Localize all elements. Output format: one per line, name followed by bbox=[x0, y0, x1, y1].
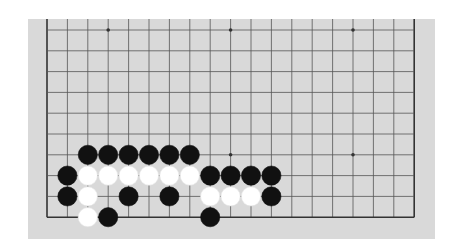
black-stone[interactable] bbox=[99, 145, 118, 164]
black-stone[interactable] bbox=[119, 187, 138, 206]
black-stone[interactable] bbox=[58, 166, 77, 185]
go-board[interactable] bbox=[28, 19, 435, 239]
black-stone[interactable] bbox=[160, 145, 179, 164]
star-point bbox=[106, 28, 110, 32]
white-stone[interactable] bbox=[241, 187, 260, 206]
white-stone[interactable] bbox=[139, 166, 158, 185]
white-stone[interactable] bbox=[180, 166, 199, 185]
white-stone[interactable] bbox=[119, 166, 138, 185]
black-stone[interactable] bbox=[119, 145, 138, 164]
white-stone[interactable] bbox=[221, 187, 240, 206]
white-stone[interactable] bbox=[78, 166, 97, 185]
black-stone[interactable] bbox=[139, 145, 158, 164]
black-stone[interactable] bbox=[201, 208, 220, 227]
white-stone[interactable] bbox=[99, 166, 118, 185]
board-grid[interactable] bbox=[28, 19, 435, 239]
black-stone[interactable] bbox=[99, 208, 118, 227]
black-stone[interactable] bbox=[262, 187, 281, 206]
black-stone[interactable] bbox=[78, 145, 97, 164]
star-point bbox=[229, 153, 233, 157]
star-point bbox=[351, 153, 355, 157]
black-stone[interactable] bbox=[180, 145, 199, 164]
black-stone[interactable] bbox=[201, 166, 220, 185]
star-point bbox=[351, 28, 355, 32]
black-stone[interactable] bbox=[58, 187, 77, 206]
white-stone[interactable] bbox=[160, 166, 179, 185]
star-point bbox=[229, 28, 233, 32]
black-stone[interactable] bbox=[241, 166, 260, 185]
white-stone[interactable] bbox=[78, 187, 97, 206]
black-stone[interactable] bbox=[160, 187, 179, 206]
white-stone[interactable] bbox=[78, 208, 97, 227]
black-stone[interactable] bbox=[262, 166, 281, 185]
black-stone[interactable] bbox=[221, 166, 240, 185]
white-stone[interactable] bbox=[201, 187, 220, 206]
